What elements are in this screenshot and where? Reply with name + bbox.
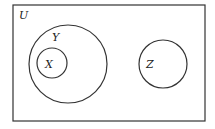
set-x-label: X [44, 58, 54, 71]
set-y-label: Y [52, 31, 61, 44]
universe-label: U [19, 9, 29, 22]
set-z-label: Z [145, 58, 154, 71]
universe-rectangle [13, 5, 205, 121]
set-y-circle [29, 25, 107, 103]
venn-diagram: U Y X Z [0, 0, 215, 129]
